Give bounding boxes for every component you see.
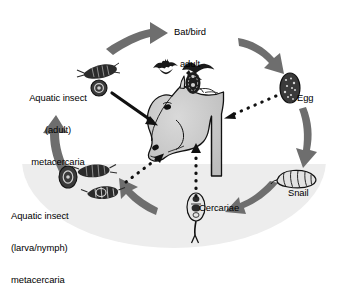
arrow-egg-to-horse [224, 96, 276, 119]
label-bat-bird-line2: adult [145, 59, 235, 70]
label-insect-adult-line3: metacercaria [12, 157, 104, 168]
label-insect-larva-line2: (larva/nymph) [11, 243, 103, 254]
label-insect-larva-line3: metacercaria [11, 275, 103, 286]
arrow-egg-to-snail [296, 107, 317, 168]
label-aquatic-insect-larva: Aquatic insect (larva/nymph) metacercari… [11, 190, 103, 287]
label-egg: Egg [297, 93, 314, 104]
arrow-bat-bird-to-egg [238, 38, 284, 74]
label-insect-larva-line1: Aquatic insect [11, 211, 103, 222]
label-snail: Snail [288, 188, 309, 199]
label-bat-bird-line1: Bat/bird [145, 27, 235, 38]
label-aquatic-insect-adult: Aquatic insect (adult) metacercaria [12, 72, 104, 189]
label-insect-adult-line2: (adult) [12, 125, 104, 136]
label-bat-bird-adult: Bat/bird adult [145, 6, 235, 91]
label-insect-adult-line1: Aquatic insect [12, 93, 104, 104]
label-cercariae: Cercariae [199, 203, 239, 214]
